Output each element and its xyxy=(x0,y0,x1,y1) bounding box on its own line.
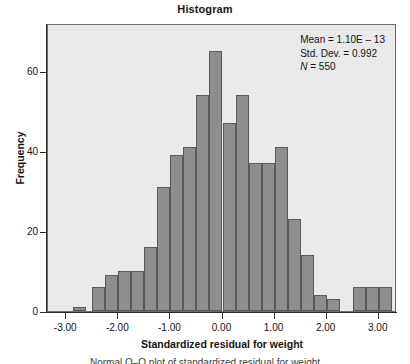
histogram-bar xyxy=(144,247,157,311)
y-axis-tick-label: 60 xyxy=(0,67,38,77)
histogram-bar xyxy=(73,307,86,311)
histogram-bar xyxy=(301,255,314,311)
y-axis-tick xyxy=(40,152,47,153)
x-axis-tick-label: 0.00 xyxy=(199,322,245,333)
y-axis-line xyxy=(46,24,47,313)
x-axis-tick-label: 1.00 xyxy=(251,322,297,333)
page-title: Histogram xyxy=(0,3,410,15)
histogram-bar xyxy=(223,123,236,311)
x-axis-tick xyxy=(326,313,327,319)
histogram-bar xyxy=(275,147,288,311)
histogram-bar xyxy=(366,287,379,311)
y-axis-tick-label: 0 xyxy=(0,307,38,317)
x-axis-tick-label: -1.00 xyxy=(146,322,192,333)
stat-std-dev: Std. Dev. = 0.992 xyxy=(300,47,385,61)
histogram-bar xyxy=(118,271,131,311)
histogram-bar xyxy=(262,163,275,311)
histogram-bar xyxy=(105,275,118,311)
y-axis-tick xyxy=(40,232,47,233)
stat-n: N = 550 xyxy=(300,60,385,74)
x-axis-title: Standardized residual for weight xyxy=(47,338,397,350)
y-axis-tick-label: 20 xyxy=(0,227,38,237)
histogram-bar xyxy=(249,163,262,311)
histogram-bar xyxy=(327,299,340,311)
histogram-figure: Histogram Mean = 1.10E – 13 Std. Dev. = … xyxy=(0,0,410,364)
histogram-bar xyxy=(288,219,301,311)
histogram-bar xyxy=(379,287,392,311)
plot-area: Mean = 1.10E – 13 Std. Dev. = 0.992 N = … xyxy=(47,24,396,312)
y-axis-title: Frequency xyxy=(14,108,26,208)
histogram-bar xyxy=(170,155,183,311)
y-axis-tick xyxy=(40,72,47,73)
x-axis-tick xyxy=(378,313,379,319)
stats-annotation: Mean = 1.10E – 13 Std. Dev. = 0.992 N = … xyxy=(300,33,385,74)
x-axis-tick xyxy=(65,313,66,319)
histogram-bar xyxy=(196,95,209,311)
figure-caption: Normal Q–Q plot of standardized residual… xyxy=(0,357,410,364)
y-axis-tick xyxy=(40,312,47,313)
stat-n-value: = 550 xyxy=(307,61,335,72)
x-axis-tick-label: 3.00 xyxy=(355,322,401,333)
histogram-bar xyxy=(92,287,105,311)
x-axis-tick xyxy=(117,313,118,319)
histogram-bar xyxy=(157,187,170,311)
x-axis-tick-label: 2.00 xyxy=(303,322,349,333)
x-axis-tick xyxy=(274,313,275,319)
histogram-bar xyxy=(131,271,144,311)
x-axis-tick-label: -3.00 xyxy=(42,322,88,333)
histogram-bar xyxy=(209,51,222,311)
histogram-bar xyxy=(236,95,249,311)
histogram-bar xyxy=(183,147,196,311)
histogram-bar xyxy=(314,295,327,311)
x-axis-tick-label: -2.00 xyxy=(94,322,140,333)
x-axis-tick xyxy=(222,313,223,319)
x-axis-tick xyxy=(169,313,170,319)
stat-mean: Mean = 1.10E – 13 xyxy=(300,33,385,47)
histogram-bar xyxy=(353,287,366,311)
